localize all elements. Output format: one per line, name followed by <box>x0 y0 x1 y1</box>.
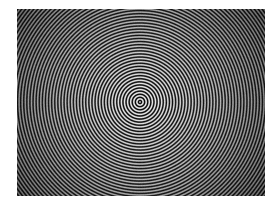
figure-title: Concentric Ring Interference Pattern <box>0 0 1 1</box>
figure-stage: Concentric Ring Interference Pattern Gra… <box>0 0 278 208</box>
ring-pattern-canvas <box>17 9 265 196</box>
ring-pattern-panel <box>17 9 265 196</box>
figure-alt-text: Grayscale concentric ring pattern with b… <box>0 0 1 1</box>
